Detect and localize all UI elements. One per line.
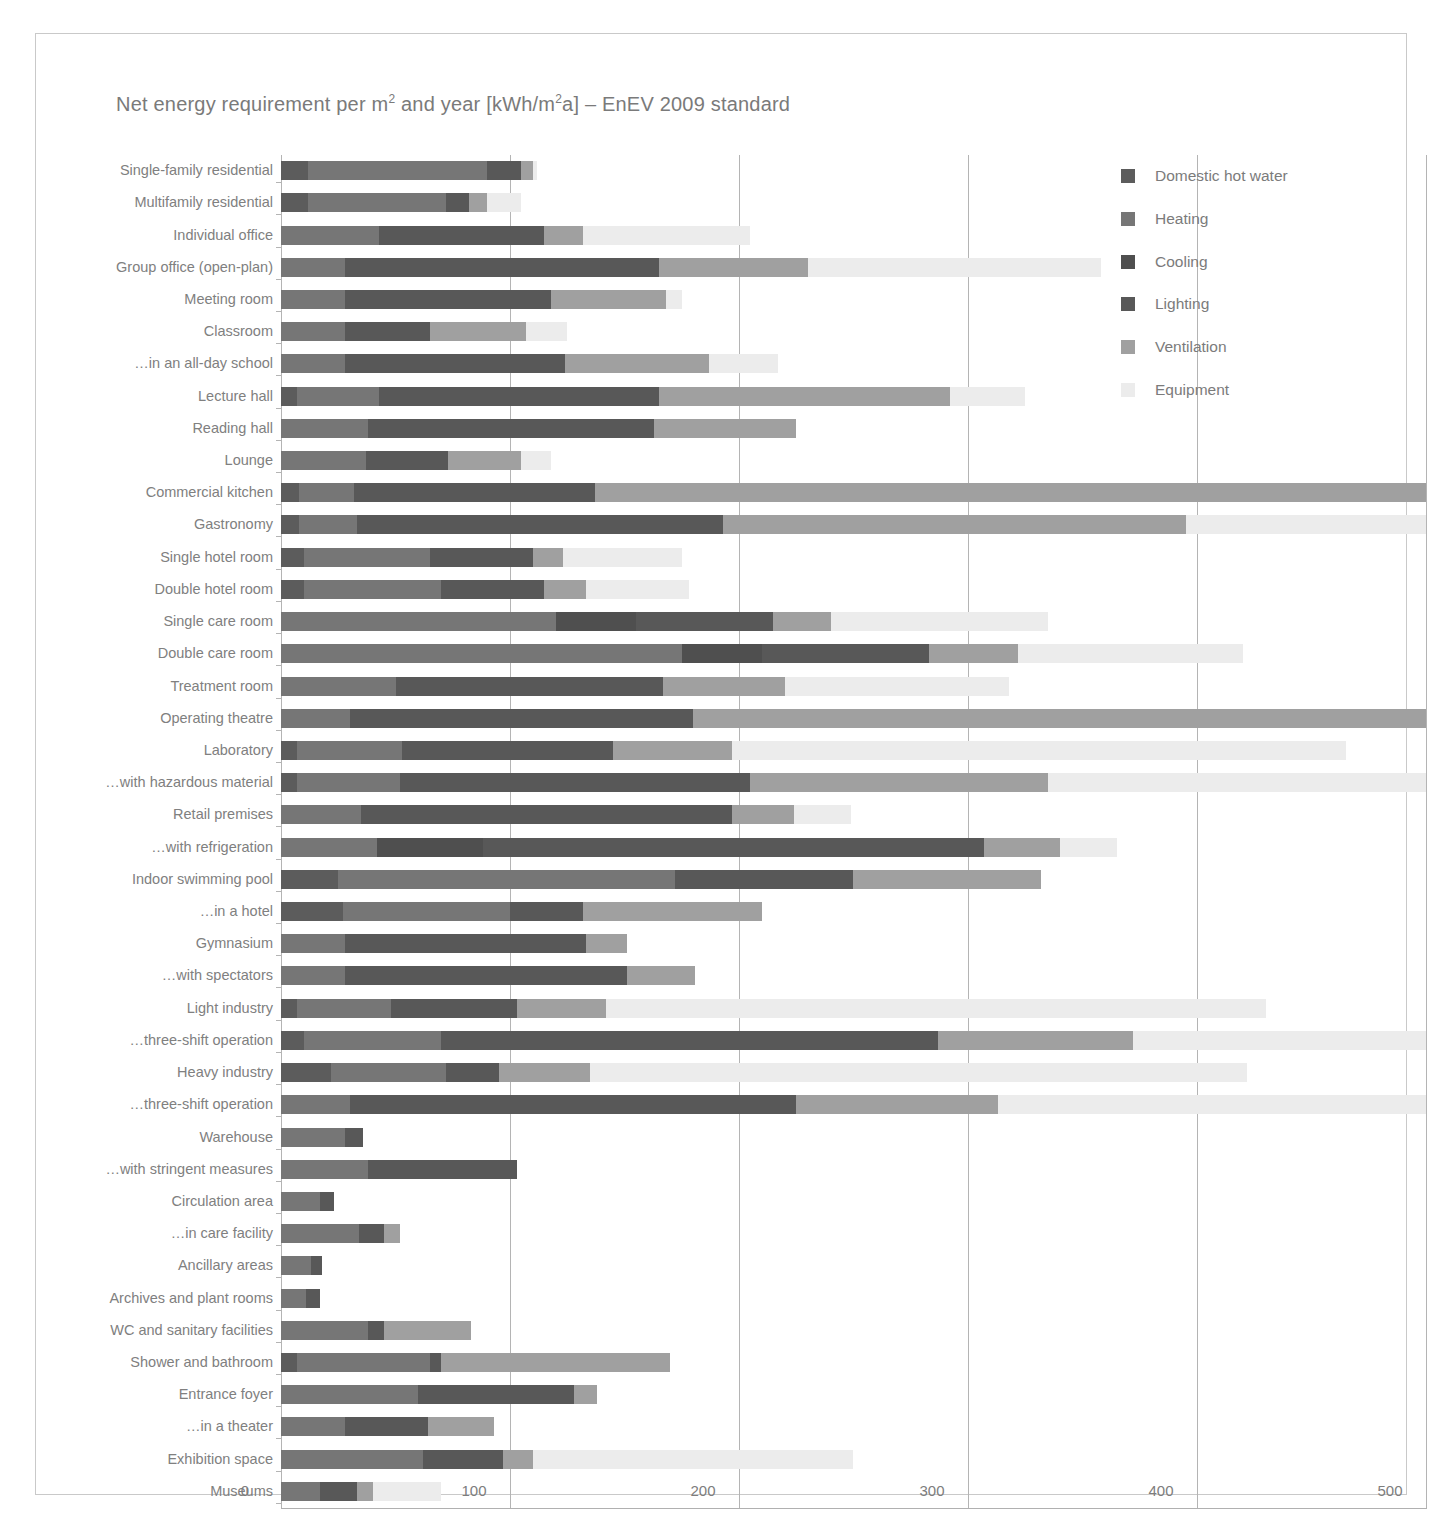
- bar-row[interactable]: Double hotel room: [281, 574, 1426, 606]
- bar-segment[interactable]: [281, 741, 297, 760]
- bar-segment[interactable]: [281, 644, 682, 663]
- bar-segment[interactable]: [281, 1192, 320, 1211]
- bar-segment[interactable]: [574, 1385, 597, 1404]
- bar-row[interactable]: …with hazardous material: [281, 767, 1426, 799]
- bar-segment[interactable]: [446, 1063, 499, 1082]
- stacked-bar[interactable]: [281, 1353, 1426, 1372]
- bar-segment[interactable]: [281, 515, 299, 534]
- bar-segment[interactable]: [503, 1450, 533, 1469]
- bar-segment[interactable]: [281, 999, 297, 1018]
- bar-segment[interactable]: [732, 805, 794, 824]
- bar-row[interactable]: …with spectators: [281, 960, 1426, 992]
- bar-segment[interactable]: [750, 773, 1048, 792]
- bar-segment[interactable]: [281, 193, 308, 212]
- stacked-bar[interactable]: [281, 1256, 1426, 1275]
- bar-segment[interactable]: [281, 773, 297, 792]
- bar-segment[interactable]: [297, 387, 379, 406]
- bar-segment[interactable]: [281, 1095, 350, 1114]
- bar-segment[interactable]: [595, 483, 1426, 502]
- bar-segment[interactable]: [281, 966, 345, 985]
- bar-row[interactable]: Gastronomy: [281, 509, 1426, 541]
- bar-row[interactable]: …with stringent measures: [281, 1154, 1426, 1186]
- bar-row[interactable]: …in an all-day school: [281, 348, 1426, 380]
- stacked-bar[interactable]: [281, 1031, 1426, 1050]
- stacked-bar[interactable]: [281, 902, 1426, 921]
- stacked-bar[interactable]: [281, 966, 1426, 985]
- bar-segment[interactable]: [441, 1031, 938, 1050]
- bar-segment[interactable]: [345, 966, 627, 985]
- bar-segment[interactable]: [281, 902, 343, 921]
- bar-segment[interactable]: [281, 1450, 423, 1469]
- stacked-bar[interactable]: [281, 1095, 1426, 1114]
- stacked-bar[interactable]: [281, 1289, 1426, 1308]
- bar-segment[interactable]: [281, 1256, 311, 1275]
- bar-segment[interactable]: [521, 451, 551, 470]
- stacked-bar[interactable]: [281, 451, 1426, 470]
- bar-segment[interactable]: [586, 580, 689, 599]
- bar-segment[interactable]: [441, 1353, 670, 1372]
- stacked-bar[interactable]: [281, 387, 1426, 406]
- bar-segment[interactable]: [418, 1385, 574, 1404]
- bar-segment[interactable]: [345, 1417, 427, 1436]
- bar-row[interactable]: …with refrigeration: [281, 832, 1426, 864]
- bar-segment[interactable]: [311, 1256, 322, 1275]
- bar-row[interactable]: Operating theatre: [281, 703, 1426, 735]
- stacked-bar[interactable]: [281, 644, 1426, 663]
- bar-segment[interactable]: [308, 193, 445, 212]
- bar-segment[interactable]: [606, 999, 1266, 1018]
- bar-segment[interactable]: [368, 419, 654, 438]
- bar-segment[interactable]: [281, 1128, 345, 1147]
- bar-segment[interactable]: [627, 966, 696, 985]
- bar-row[interactable]: …three-shift operation: [281, 1025, 1426, 1057]
- bar-row[interactable]: Lounge: [281, 445, 1426, 477]
- bar-segment[interactable]: [1060, 838, 1117, 857]
- bar-row[interactable]: Single care room: [281, 606, 1426, 638]
- stacked-bar[interactable]: [281, 677, 1426, 696]
- bar-segment[interactable]: [808, 258, 1101, 277]
- bar-segment[interactable]: [586, 934, 627, 953]
- bar-segment[interactable]: [732, 741, 1346, 760]
- bar-segment[interactable]: [723, 515, 1186, 534]
- bar-segment[interactable]: [345, 354, 565, 373]
- bar-row[interactable]: Gymnasium: [281, 928, 1426, 960]
- bar-segment[interactable]: [281, 1385, 418, 1404]
- bar-segment[interactable]: [281, 1160, 368, 1179]
- bar-segment[interactable]: [379, 387, 658, 406]
- bar-segment[interactable]: [281, 1063, 331, 1082]
- stacked-bar[interactable]: [281, 870, 1426, 889]
- stacked-bar[interactable]: [281, 322, 1426, 341]
- stacked-bar[interactable]: [281, 580, 1426, 599]
- bar-segment[interactable]: [299, 515, 356, 534]
- stacked-bar[interactable]: [281, 1192, 1426, 1211]
- bar-segment[interactable]: [281, 451, 366, 470]
- bar-segment[interactable]: [281, 709, 350, 728]
- bar-segment[interactable]: [281, 612, 556, 631]
- bar-row[interactable]: Archives and plant rooms: [281, 1283, 1426, 1315]
- bar-segment[interactable]: [384, 1321, 471, 1340]
- stacked-bar[interactable]: [281, 805, 1426, 824]
- stacked-bar[interactable]: [281, 1160, 1426, 1179]
- bar-segment[interactable]: [544, 580, 585, 599]
- stacked-bar[interactable]: [281, 290, 1426, 309]
- bar-segment[interactable]: [281, 1224, 359, 1243]
- bar-segment[interactable]: [565, 354, 709, 373]
- bar-segment[interactable]: [663, 677, 784, 696]
- bar-segment[interactable]: [281, 258, 345, 277]
- bar-segment[interactable]: [281, 419, 368, 438]
- bar-segment[interactable]: [938, 1031, 1133, 1050]
- bar-segment[interactable]: [345, 934, 585, 953]
- bar-row[interactable]: Warehouse: [281, 1121, 1426, 1153]
- bar-segment[interactable]: [659, 387, 950, 406]
- bar-segment[interactable]: [281, 677, 396, 696]
- bar-segment[interactable]: [998, 1095, 1426, 1114]
- bar-segment[interactable]: [345, 322, 430, 341]
- bar-segment[interactable]: [563, 548, 682, 567]
- bar-segment[interactable]: [281, 354, 345, 373]
- bar-segment[interactable]: [533, 548, 563, 567]
- stacked-bar[interactable]: [281, 193, 1426, 212]
- bar-segment[interactable]: [590, 1063, 1247, 1082]
- bar-segment[interactable]: [402, 741, 613, 760]
- stacked-bar[interactable]: [281, 1224, 1426, 1243]
- bar-segment[interactable]: [693, 709, 1426, 728]
- bar-segment[interactable]: [796, 1095, 998, 1114]
